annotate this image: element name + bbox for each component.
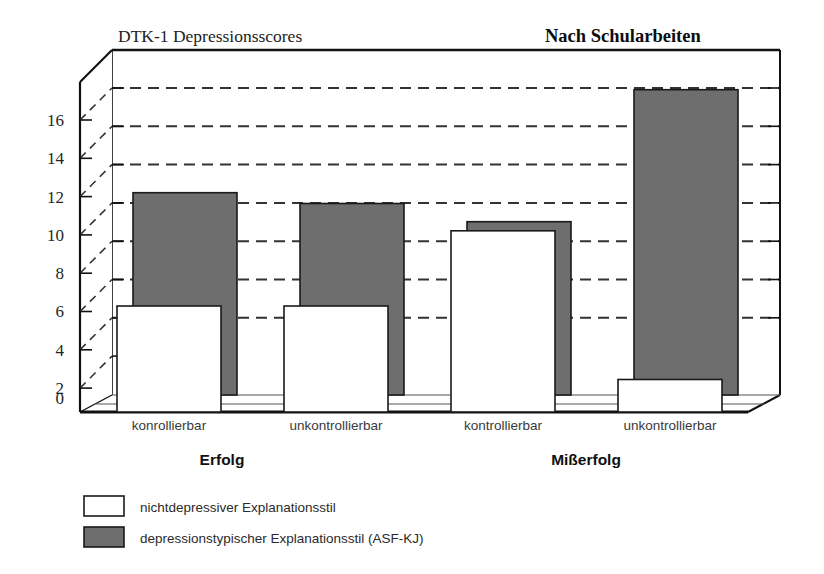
category-label-1: konrollierbar [132, 418, 207, 433]
bar-group-1 [117, 193, 237, 412]
bar-nondepressive-3[interactable] [451, 231, 555, 412]
bar-chart-svg: DTK-1 Depressionsscores Nach Schularbeit… [0, 0, 824, 574]
bar-nondepressive-4[interactable] [618, 380, 722, 413]
chart-title-left: DTK-1 Depressionsscores [118, 26, 302, 46]
y-tick-label-4: 4 [56, 341, 65, 360]
bar-group-2 [284, 204, 404, 413]
bar-depressive-4[interactable] [634, 90, 738, 395]
category-label-3: kontrollierbar [464, 418, 543, 433]
group-label-erfolg: Erfolg [200, 451, 245, 468]
chart-container: DTK-1 Depressionsscores Nach Schularbeit… [0, 0, 824, 574]
legend-swatch-nondepressive [84, 496, 124, 516]
y-tick-label-14: 14 [47, 149, 65, 168]
category-label-2: unkontrollierbar [289, 418, 383, 433]
y-tick-label-6: 6 [56, 302, 65, 321]
y-tick-label-8: 8 [56, 264, 65, 283]
y-tick-label-10: 10 [47, 226, 64, 245]
chart-title-right: Nach Schularbeiten [545, 26, 701, 46]
legend-swatch-depressive [84, 527, 124, 547]
group-label-misserfolg: Mißerfolg [551, 451, 621, 468]
bar-nondepressive-1[interactable] [117, 306, 221, 412]
bar-nondepressive-2[interactable] [284, 306, 388, 412]
legend-label-nondepressive: nichtdepressiver Explanationsstil [140, 500, 336, 515]
bar-group-3 [451, 222, 571, 412]
category-label-4: unkontrollierbar [623, 418, 717, 433]
legend-label-depressive: depressionstypischer Explanationsstil (A… [140, 531, 424, 546]
y-tick-label-16: 16 [47, 111, 64, 130]
y-tick-label-12: 12 [47, 188, 64, 207]
y-tick-label-2: 2 [56, 379, 65, 398]
bar-group-4 [618, 90, 738, 412]
